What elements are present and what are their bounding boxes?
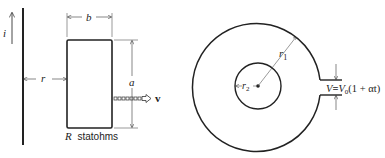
current-label: i [3, 27, 6, 39]
b-label: b [86, 11, 92, 23]
left-figure: i b r a v R [3, 8, 161, 145]
outer-conductor-ring [192, 24, 320, 152]
velocity-arrow-icon [114, 95, 151, 103]
diagram-canvas: i b r a v R [0, 0, 385, 158]
r2-label: r2 [242, 80, 250, 93]
velocity-label: v [155, 92, 161, 104]
right-figure: r1 r2 V=V0(1 + αt) [192, 24, 380, 152]
a-label: a [129, 76, 135, 88]
r-label: r [41, 72, 46, 84]
voltage-equation: V=V0(1 + αt) [326, 83, 381, 96]
r1-label: r1 [279, 47, 287, 62]
resistance-label: R statohms [64, 130, 118, 142]
rectangular-loop [67, 40, 112, 128]
r1-radius-line [258, 37, 296, 86]
